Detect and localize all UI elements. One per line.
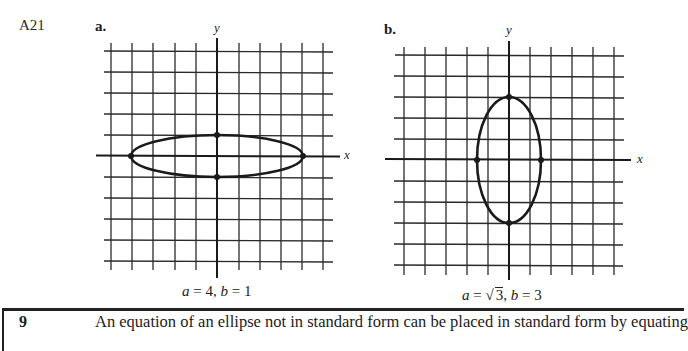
caption-a-eq2: = 1 bbox=[228, 283, 251, 299]
caption-b-var: a bbox=[462, 287, 470, 303]
caption-b-sqrt-value: 3 bbox=[495, 287, 504, 303]
caption-a-bvar: b bbox=[220, 283, 228, 299]
section-text: An equation of an ellipse not in standar… bbox=[95, 312, 688, 332]
graph-b-caption: a = √3, b = 3 bbox=[462, 287, 542, 304]
caption-a-var: a bbox=[182, 283, 190, 299]
caption-a-eq1: = 4, bbox=[190, 283, 221, 299]
caption-b-eq3: = 3 bbox=[518, 287, 541, 303]
caption-b-eq1: = bbox=[470, 287, 486, 303]
caption-b-eq2: , bbox=[503, 287, 511, 303]
graph-b-part-label: b. bbox=[384, 21, 396, 38]
graph-b-y-axis-label: y bbox=[506, 22, 512, 38]
graph-b-x-axis-label: x bbox=[637, 151, 643, 167]
section-number: 9 bbox=[19, 313, 27, 331]
graph-a-caption: a = 4, b = 1 bbox=[182, 283, 251, 300]
